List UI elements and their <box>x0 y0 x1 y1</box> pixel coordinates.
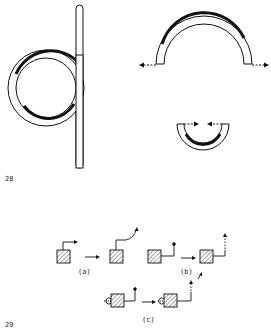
subfigure-c <box>104 280 193 307</box>
subfigure-label-b: (b) <box>180 268 193 276</box>
coiled-rod <box>8 5 84 168</box>
open-arch <box>139 13 269 68</box>
closed-cup <box>177 122 229 151</box>
subfigure-label-a: (a) <box>78 268 91 276</box>
figure-canvas <box>0 0 271 334</box>
subfigure-a <box>57 227 139 263</box>
subfigure-label-c: (c) <box>142 316 155 324</box>
figure-number-28: 28 <box>5 175 13 183</box>
figure-number-29: 29 <box>5 321 13 329</box>
